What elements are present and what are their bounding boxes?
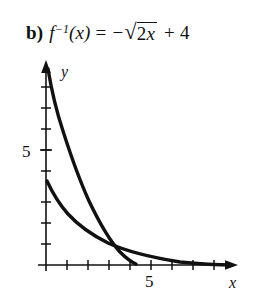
radicand-variable: x (146, 23, 155, 44)
y-axis-label: y (59, 63, 69, 81)
x-axis-label: x (228, 274, 236, 291)
inverse-exponent: −1 (55, 22, 69, 37)
radicand: 2x (137, 22, 157, 43)
curve-inverse-function (47, 181, 232, 265)
part-label: b) (26, 22, 43, 44)
y-tick-label-5: 5 (22, 142, 31, 161)
function-argument: (x) (69, 22, 91, 44)
constant-term: + 4 (164, 22, 190, 44)
square-root-expression: √ 2x (124, 23, 157, 44)
y-axis (41, 60, 51, 271)
coordinate-plane: y x 5 5 (0, 55, 261, 299)
radicand-coefficient: 2 (137, 23, 147, 44)
radical-sign-icon: √ (124, 22, 136, 41)
equals-sign: = (96, 22, 107, 44)
minus-sign: − (113, 22, 124, 44)
x-tick-label-5: 5 (145, 272, 154, 291)
graph-figure: y x 5 5 (0, 55, 261, 299)
equation-line: b) f−1(x) = − √ 2x + 4 (26, 22, 256, 52)
